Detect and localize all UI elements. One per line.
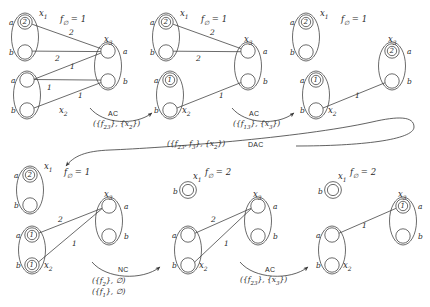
p1-cost-label: f∅ = 1 xyxy=(60,15,86,26)
p5-x3-value-b-label: b xyxy=(273,233,278,241)
p1-x2-value-b-label: b xyxy=(11,107,16,115)
transition-t4-op: NC xyxy=(118,266,129,273)
p1-x3-value-a-label: a xyxy=(123,48,127,56)
p6-var-x1-name: x1 xyxy=(338,172,347,183)
p2-edge-weight-0: 2 xyxy=(210,29,215,37)
p6-x3-value-b-label: b xyxy=(418,233,423,241)
p4-x2-value-b-label: b xyxy=(16,262,21,270)
p4-x3-value-a-label: a xyxy=(124,203,128,211)
p5-edge-weight-1: 1 xyxy=(224,240,229,248)
p3-x3-value-a-label: a xyxy=(407,48,411,56)
p4-x1-a-cost: 2 xyxy=(28,172,32,179)
transition-t2-op: AC xyxy=(249,110,259,117)
p6-var-x3-name: x3 xyxy=(398,190,407,201)
diagram-svg xyxy=(0,0,430,307)
p2-x3-value-b-label: b xyxy=(263,78,268,86)
p2-x2-value-b-label: b xyxy=(154,107,159,115)
p2-var-x3-name: x3 xyxy=(244,35,253,46)
p4-x1-value-a-label: a xyxy=(14,172,18,180)
p2-cost-label: f∅ = 1 xyxy=(201,15,227,26)
transition-t3-args: ({f23, f3}, {x2}) xyxy=(167,140,225,150)
transition-t2-args: ({f13}, {x3}) xyxy=(233,120,280,130)
diagram-canvas: x1 a b 2 x2 a b x3 a b f∅ = 1 2 2 1 1 1 … xyxy=(0,0,430,307)
p3-x1-a-cost: 2 xyxy=(304,19,308,26)
p4-edge-weight-1: 1 xyxy=(72,240,77,248)
transition-t3-op: DAC xyxy=(248,141,264,148)
p3-var-x1-name: x1 xyxy=(320,9,329,20)
panel-p3-graph xyxy=(293,13,406,119)
p1-x1-value-b-label: b xyxy=(9,49,14,57)
p2-var-x1-name: x1 xyxy=(180,9,189,20)
p1-x1-value-a-label: a xyxy=(9,19,13,27)
p3-x1-value-a-label: a xyxy=(290,19,294,27)
p2-x2-a-cost: 1 xyxy=(168,77,172,84)
panel-p4-graph xyxy=(17,166,123,274)
p3-cost-label: f∅ = 1 xyxy=(341,15,367,26)
p2-x3-value-a-label: a xyxy=(263,48,267,56)
p2-x1-value-b-label: b xyxy=(150,49,155,57)
p5-x2-value-a-label: a xyxy=(172,232,176,240)
transition-t5-args: ({f23}, {x3}) xyxy=(240,276,287,286)
p1-x2-value-a-label: a xyxy=(11,77,15,85)
p5-var-x3-name: x3 xyxy=(253,190,262,201)
p3-x3-value-b-label: b xyxy=(407,78,412,86)
p5-x2-value-b-label: b xyxy=(172,262,177,270)
transition-t4-args: ({f2}, ∅)({f1}, ∅) xyxy=(92,276,125,299)
p4-var-x3-name: x3 xyxy=(104,190,113,201)
p6-edge-weight-0: 1 xyxy=(362,222,367,230)
panel-p1-graph xyxy=(12,13,122,119)
p1-edge-weight-4: 1 xyxy=(78,92,83,100)
p3-x1-value-b-label: b xyxy=(290,49,295,57)
p5-var-x2-name: x2 xyxy=(199,261,208,272)
p5-x3-value-a-label: a xyxy=(273,203,277,211)
p4-edge-weight-0: 2 xyxy=(58,216,63,224)
p1-x3-value-b-label: b xyxy=(123,78,128,86)
transition-t1-args: ({f23}, {x2}) xyxy=(93,120,140,130)
transition-arrow-t3d xyxy=(66,150,110,166)
p4-var-x1-name: x1 xyxy=(44,162,53,173)
p3-x3-a-cost: 2 xyxy=(390,48,394,55)
p5-var-x1-name: x1 xyxy=(193,172,202,183)
p6-x1-value-b-label: b xyxy=(318,188,323,196)
transition-arrow-t3b xyxy=(372,118,414,127)
p2-x1-a-cost: 2 xyxy=(164,19,168,26)
transition-t1-op: AC xyxy=(108,110,118,117)
p4-cost-label: f∅ = 1 xyxy=(64,168,90,179)
p1-x1-a-cost: 2 xyxy=(23,19,27,26)
p3-x2-value-b-label: b xyxy=(300,107,305,115)
p4-var-x2-name: x2 xyxy=(44,261,53,272)
p1-edge-weight-2: 1 xyxy=(70,63,75,71)
p2-edge-weight-2: 1 xyxy=(219,92,224,100)
p1-var-x2-name: x2 xyxy=(59,106,68,117)
transition-t5-op: AC xyxy=(265,266,275,273)
p2-var-x2-name: x2 xyxy=(182,106,191,117)
p2-x1-value-a-label: a xyxy=(150,19,154,27)
p4-x2-b-cost: 1 xyxy=(30,262,34,269)
p1-edge-weight-3: 1 xyxy=(47,84,52,92)
p6-x3-a-cost: 1 xyxy=(401,203,405,210)
p6-x2-value-a-label: a xyxy=(316,232,320,240)
panel-p2-graph xyxy=(153,13,262,119)
p4-x2-a-cost: 1 xyxy=(30,232,34,239)
p6-cost-label: f∅ = 2 xyxy=(350,168,376,179)
p4-x3-value-b-label: b xyxy=(124,233,129,241)
p1-var-x1-name: x1 xyxy=(39,9,48,20)
p2-edge-weight-1: 2 xyxy=(196,55,201,63)
p3-var-x2-name: x2 xyxy=(328,106,337,117)
p6-var-x2-name: x2 xyxy=(343,261,352,272)
p3-var-x3-name: x3 xyxy=(388,35,397,46)
p3-x2-value-a-label: a xyxy=(300,77,304,85)
p1-edge-weight-0: 2 xyxy=(69,29,74,37)
p4-x2-value-a-label: a xyxy=(16,232,20,240)
p3-edge-weight-0: 1 xyxy=(355,92,360,100)
p4-x1-value-b-label: b xyxy=(14,202,19,210)
p1-var-x3-name: x3 xyxy=(104,35,113,46)
p6-x3-value-a-label: a xyxy=(418,203,422,211)
p3-x2-a-cost: 1 xyxy=(314,77,318,84)
p5-cost-label: f∅ = 2 xyxy=(205,168,231,179)
p1-edge-weight-1: 2 xyxy=(55,55,60,63)
p5-x1-value-b-label: b xyxy=(173,188,178,196)
p2-x2-value-a-label: a xyxy=(154,77,158,85)
transition-arrow-t3a xyxy=(296,127,414,146)
p5-edge-weight-0: 2 xyxy=(211,216,216,224)
